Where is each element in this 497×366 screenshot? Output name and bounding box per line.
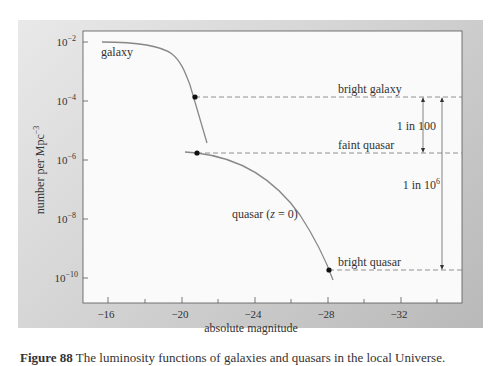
one-in-100-label: 1 in 100 — [397, 119, 436, 133]
x-tick-label: −32 — [390, 308, 407, 320]
x-tick-labels: −16 −20 −24 −28 −32 — [97, 308, 407, 320]
galaxy-label: galaxy — [101, 45, 133, 59]
figure-caption: Figure 88 The luminosity functions of ga… — [20, 350, 445, 366]
y-tick-label: 10−8 — [56, 211, 76, 225]
y-tick-label: 10−4 — [56, 93, 76, 107]
y-tick-label: 10−2 — [56, 34, 76, 48]
x-tick-label: −24 — [244, 308, 262, 320]
bright-galaxy-label: bright galaxy — [338, 82, 402, 96]
quasar-label: quasar (z = 0) — [232, 207, 298, 221]
x-axis-title: absolute magnitude — [204, 321, 298, 335]
caption-text: The luminosity functions of galaxies and… — [76, 350, 445, 365]
figure-number: Figure 88 — [20, 350, 73, 365]
y-tick-label: 10−10 — [54, 270, 78, 284]
bright-quasar-point — [326, 267, 331, 272]
y-tick-labels: 10−2 10−4 10−6 10−8 10−10 — [54, 34, 78, 284]
faint-quasar-label: faint quasar — [338, 138, 394, 152]
x-tick-label: −16 — [97, 308, 115, 320]
plot-area — [83, 31, 462, 303]
x-tick-label: −20 — [171, 308, 189, 320]
faint-quasar-point — [194, 150, 199, 155]
y-tick-label: 10−6 — [56, 152, 76, 166]
bright-quasar-label: bright quasar — [338, 255, 401, 269]
y-axis-title: number per Mpc−3 — [32, 126, 47, 215]
one-in-1e6-label: 1 in 106 — [403, 177, 440, 192]
bright-galaxy-point — [192, 94, 197, 99]
x-tick-label: −28 — [317, 308, 335, 320]
